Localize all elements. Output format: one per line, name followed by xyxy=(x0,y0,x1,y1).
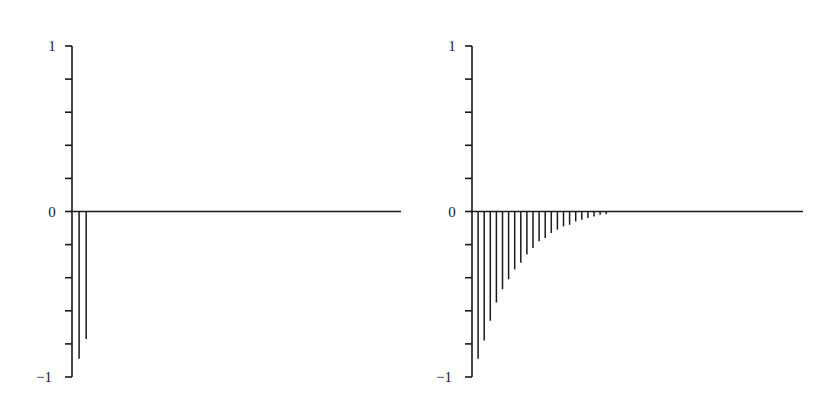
stem-chart-left: 10−1 xyxy=(36,38,401,385)
y-tick-label: 0 xyxy=(448,204,456,220)
y-tick-label: 1 xyxy=(448,38,456,54)
y-tick-label: 0 xyxy=(48,204,56,220)
stem-chart-right: 10−1 xyxy=(436,38,803,385)
y-tick-label: −1 xyxy=(436,369,452,385)
y-tick-label: 1 xyxy=(48,38,56,54)
y-tick-label: −1 xyxy=(36,369,52,385)
chart-canvas: 10−110−1 xyxy=(0,0,839,414)
